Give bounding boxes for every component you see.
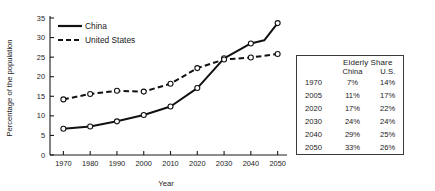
- cell-us-value: 26%: [372, 141, 403, 154]
- column-header-year: [297, 68, 333, 77]
- cell-us-value: 25%: [372, 128, 403, 141]
- legend-label-china: China: [85, 21, 107, 31]
- data-point-china: [195, 86, 200, 91]
- cell-us-value: 14%: [372, 77, 403, 90]
- x-tick-label: 1980: [82, 159, 98, 168]
- y-tick-label: 25: [37, 53, 45, 62]
- data-point-united-states: [222, 57, 227, 62]
- cell-us-value: 24%: [372, 115, 403, 128]
- table-row: 204029%25%: [297, 128, 403, 141]
- data-point-china: [275, 21, 280, 26]
- cell-china-value: 33%: [333, 141, 373, 154]
- data-point-united-states: [248, 55, 253, 60]
- table-header-row: China U.S.: [297, 68, 403, 77]
- cell-china-value: 29%: [333, 128, 373, 141]
- table-body: 19707%14%200511%17%202017%22%203024%24%2…: [297, 77, 403, 154]
- y-axis-ticks: [50, 18, 54, 155]
- cell-china-value: 17%: [333, 102, 373, 115]
- table-row: 202017%22%: [297, 102, 403, 115]
- data-point-united-states: [88, 91, 93, 96]
- chart-legend: China United States: [58, 21, 135, 45]
- table-row: 19707%14%: [297, 77, 403, 90]
- column-header-china: China: [333, 68, 373, 77]
- data-point-united-states: [114, 88, 119, 93]
- table-row: 205033%26%: [297, 141, 403, 154]
- cell-year-value: 2050: [297, 141, 333, 154]
- y-tick-label: 0: [41, 151, 45, 160]
- x-tick-label: 2050: [269, 159, 285, 168]
- x-tick-label: 1990: [109, 159, 125, 168]
- data-point-china: [141, 113, 146, 118]
- data-point-china: [88, 124, 93, 129]
- data-point-united-states: [275, 52, 280, 57]
- elderly-share-table: Elderly Share China U.S. 19707%14%200511…: [296, 55, 404, 155]
- data-point-united-states: [61, 97, 66, 102]
- table-head: Elderly Share China U.S.: [297, 56, 403, 77]
- cell-us-value: 22%: [372, 102, 403, 115]
- y-tick-label: 30: [37, 33, 45, 42]
- data-point-china: [248, 41, 253, 46]
- x-tick-label: 2030: [216, 159, 232, 168]
- y-tick-label: 10: [37, 111, 45, 120]
- data-point-united-states: [141, 89, 146, 94]
- table-row: 200511%17%: [297, 89, 403, 102]
- legend-label-united-states: United States: [85, 35, 135, 45]
- series-line-united-states: [63, 54, 277, 99]
- x-axis-label: Year: [158, 179, 174, 188]
- cell-year-value: 2040: [297, 128, 333, 141]
- data-point-china: [61, 126, 66, 131]
- x-tick-label: 2010: [162, 159, 178, 168]
- cell-china-value: 7%: [333, 77, 373, 90]
- table-row: 203024%24%: [297, 115, 403, 128]
- column-header-us: U.S.: [372, 68, 403, 77]
- cell-year-value: 1970: [297, 77, 333, 90]
- y-tick-label: 35: [37, 14, 45, 23]
- y-axis-label: Percentage of the population: [5, 39, 14, 136]
- cell-year-value: 2030: [297, 115, 333, 128]
- chart-axes: 05101520253035 1970198019902000201020202…: [37, 14, 287, 168]
- x-tick-label: 2020: [189, 159, 205, 168]
- y-tick-label: 15: [37, 92, 45, 101]
- cell-china-value: 11%: [333, 89, 373, 102]
- data-point-china: [168, 104, 173, 109]
- cell-year-value: 2020: [297, 102, 333, 115]
- cell-year-value: 2005: [297, 89, 333, 102]
- y-axis-tick-labels: 05101520253035: [37, 14, 45, 160]
- x-tick-label: 2000: [136, 159, 152, 168]
- table: Elderly Share China U.S. 19707%14%200511…: [297, 56, 403, 154]
- cell-us-value: 17%: [372, 89, 403, 102]
- x-axis-tick-labels: 197019801990200020102020203020402050: [55, 159, 286, 168]
- data-point-united-states: [168, 81, 173, 86]
- table-title-spacer: [297, 56, 333, 68]
- cell-china-value: 24%: [333, 115, 373, 128]
- y-tick-label: 20: [37, 72, 45, 81]
- x-axis-ticks: [63, 151, 277, 155]
- x-tick-label: 2040: [243, 159, 259, 168]
- x-tick-label: 1970: [55, 159, 71, 168]
- data-point-united-states: [195, 66, 200, 71]
- y-tick-label: 5: [41, 131, 45, 140]
- data-point-china: [114, 119, 119, 124]
